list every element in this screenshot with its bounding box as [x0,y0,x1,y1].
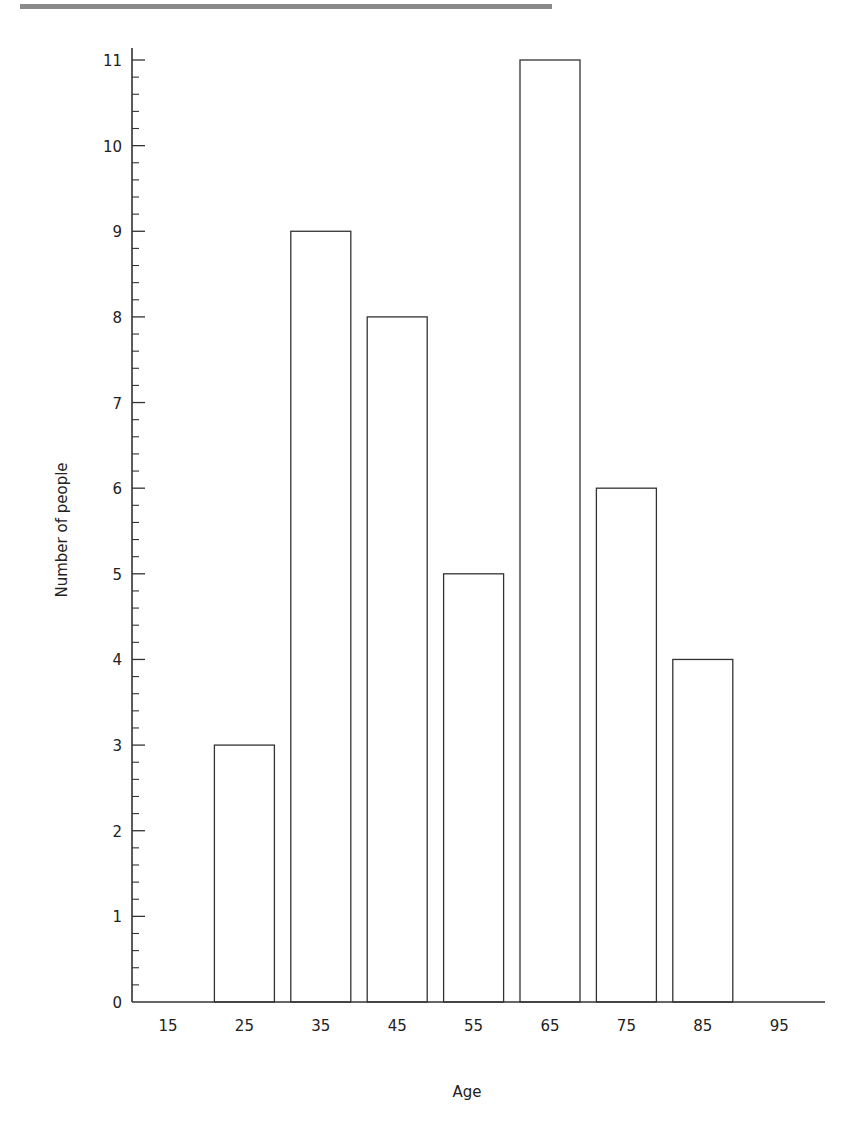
x-tick-label: 85 [693,1017,712,1035]
y-tick-label: 4 [112,651,122,669]
y-axis: 01234567891011 [103,48,145,1012]
bar-age-25 [214,745,274,1002]
y-tick-label: 3 [112,737,122,755]
histogram-chart: 01234567891011 152535455565758595 Number… [0,0,862,1124]
y-tick-label: 1 [112,908,122,926]
x-tick-label: 65 [540,1017,559,1035]
bar-age-55 [444,574,504,1002]
x-tick-label: 15 [158,1017,177,1035]
bar-age-75 [596,488,656,1002]
x-tick-label: 45 [388,1017,407,1035]
x-tick-label: 55 [464,1017,483,1035]
y-axis-title: Number of people [53,462,71,597]
bars-group [214,60,732,1002]
y-tick-label: 2 [112,823,122,841]
y-tick-label: 8 [112,309,122,327]
bar-age-85 [673,659,733,1002]
bar-age-45 [367,317,427,1002]
y-tick-label: 11 [103,52,122,70]
y-tick-label: 9 [112,223,122,241]
x-tick-label: 95 [770,1017,789,1035]
bar-age-35 [291,231,351,1002]
y-tick-label: 5 [112,566,122,584]
x-axis-title: Age [452,1083,481,1101]
y-tick-label: 0 [112,994,122,1012]
x-tick-label: 25 [235,1017,254,1035]
x-tick-label: 35 [311,1017,330,1035]
x-axis: 152535455565758595 [132,1002,825,1035]
y-tick-label: 10 [103,138,122,156]
bar-age-65 [520,60,580,1002]
y-tick-label: 6 [112,480,122,498]
x-tick-label: 75 [617,1017,636,1035]
y-tick-label: 7 [112,395,122,413]
